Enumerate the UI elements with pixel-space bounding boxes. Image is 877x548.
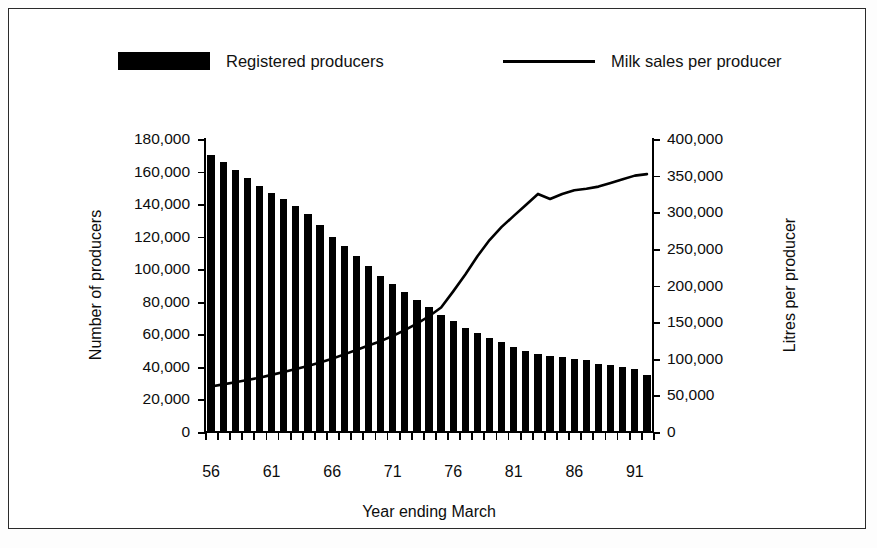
x-axis-tick-label: 76 <box>444 463 462 481</box>
bar <box>244 178 251 432</box>
x-axis-title: Year ending March <box>362 503 496 521</box>
bar <box>571 359 578 432</box>
x-axis-tick <box>338 432 340 440</box>
y-axis-left-tick-label: 40,000 <box>0 358 190 376</box>
bar <box>207 155 214 432</box>
y-axis-left-tick-label: 0 <box>0 423 190 441</box>
x-axis-tick <box>471 432 473 440</box>
x-axis-tick <box>435 432 437 440</box>
y-axis-left-tick-label: 140,000 <box>0 195 190 213</box>
x-axis-tick-label: 71 <box>384 463 402 481</box>
y-axis-left-tick-label: 100,000 <box>0 260 190 278</box>
y-axis-left-tick <box>198 237 205 239</box>
bar <box>498 342 505 432</box>
x-axis-tick-label: 61 <box>263 463 281 481</box>
bar <box>425 307 432 432</box>
y-axis-right-tick-label: 0 <box>667 423 676 441</box>
y-axis-right-tick-label: 200,000 <box>667 277 723 295</box>
x-axis-tick <box>387 432 389 440</box>
x-axis-tick <box>653 432 655 440</box>
x-axis-tick <box>532 432 534 440</box>
x-axis-tick <box>266 432 268 440</box>
x-axis-tick <box>278 432 280 440</box>
x-axis-tick <box>217 432 219 440</box>
x-axis-tick-label: 66 <box>323 463 341 481</box>
bar <box>534 354 541 432</box>
y-axis-right-tick <box>653 395 660 397</box>
bar <box>631 369 638 432</box>
bar <box>316 225 323 432</box>
bar <box>292 206 299 432</box>
x-axis-tick <box>520 432 522 440</box>
y-axis-right-title: Litres per producer <box>781 218 799 352</box>
bar <box>413 300 420 432</box>
bar <box>280 199 287 432</box>
x-axis-tick <box>617 432 619 440</box>
bar <box>474 333 481 432</box>
bar <box>268 193 275 432</box>
bar <box>256 186 263 432</box>
bar <box>619 367 626 432</box>
legend-label-milk-sales-per-producer: Milk sales per producer <box>611 52 782 71</box>
x-axis-tick <box>350 432 352 440</box>
y-axis-right-tick-label: 50,000 <box>667 386 714 404</box>
x-axis-tick <box>411 432 413 440</box>
bar <box>450 321 457 432</box>
y-axis-left-tick-label: 120,000 <box>0 228 190 246</box>
bar <box>353 256 360 432</box>
y-axis-left-tick <box>198 399 205 401</box>
y-axis-left-tick-label: 80,000 <box>0 293 190 311</box>
x-axis-tick <box>314 432 316 440</box>
y-axis-left-tick <box>198 334 205 336</box>
x-axis-tick <box>544 432 546 440</box>
bar <box>607 365 614 432</box>
bar <box>462 328 469 432</box>
x-axis-tick <box>241 432 243 440</box>
plot-area: 020,00040,00060,00080,000100,000120,0001… <box>205 139 653 432</box>
y-axis-left-tick <box>198 204 205 206</box>
y-axis-right-tick <box>653 286 660 288</box>
y-axis-right-tick <box>653 139 660 141</box>
y-axis-left-tick <box>198 367 205 369</box>
bar <box>437 315 444 432</box>
bar <box>522 351 529 432</box>
bar <box>486 338 493 432</box>
y-axis-left-tick <box>198 269 205 271</box>
bar <box>546 356 553 433</box>
x-axis-tick-label: 86 <box>565 463 583 481</box>
x-axis-tick <box>483 432 485 440</box>
x-axis-tick <box>423 432 425 440</box>
x-axis-tick-label: 56 <box>202 463 220 481</box>
bar <box>365 266 372 432</box>
bar <box>304 214 311 432</box>
bar <box>220 162 227 432</box>
y-axis-left-tick-label: 60,000 <box>0 325 190 343</box>
x-axis-tick-label: 91 <box>626 463 644 481</box>
bar <box>559 357 566 432</box>
x-axis-tick <box>508 432 510 440</box>
x-axis-tick <box>447 432 449 440</box>
y-axis-right-tick <box>653 322 660 324</box>
x-axis-tick <box>580 432 582 440</box>
bar <box>389 284 396 432</box>
x-axis-tick <box>253 432 255 440</box>
x-axis-tick <box>568 432 570 440</box>
bar <box>583 360 590 432</box>
bar <box>341 246 348 432</box>
y-axis-right-tick-label: 400,000 <box>667 130 723 148</box>
x-axis-tick <box>302 432 304 440</box>
bar <box>232 170 239 432</box>
legend-swatch-line-icon <box>503 52 595 70</box>
x-axis-tick <box>326 432 328 440</box>
y-axis-left-tick-label: 20,000 <box>0 390 190 408</box>
y-axis-right-tick <box>653 212 660 214</box>
bar <box>377 276 384 432</box>
y-axis-left-tick-label: 180,000 <box>0 130 190 148</box>
y-axis-right-tick-label: 250,000 <box>667 240 723 258</box>
y-axis-right-tick <box>653 176 660 178</box>
y-axis-right-tick-label: 300,000 <box>667 203 723 221</box>
y-axis-right-tick <box>653 249 660 251</box>
x-axis-tick <box>629 432 631 440</box>
x-axis-tick <box>496 432 498 440</box>
x-axis-tick <box>290 432 292 440</box>
